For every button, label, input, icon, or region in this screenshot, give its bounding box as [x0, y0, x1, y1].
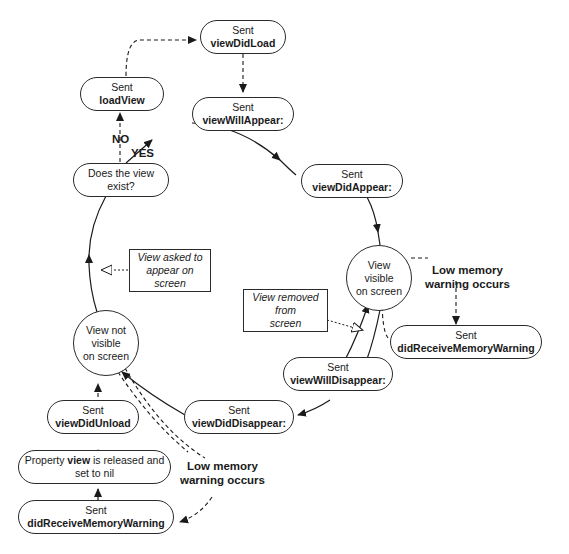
does-view-exist-line1: Does the view — [88, 167, 154, 180]
view-asked-to-appear-note: View asked to appear on screen — [129, 249, 211, 292]
does-view-exist-line2: exist? — [107, 180, 134, 193]
view-visible-line1: View — [368, 259, 391, 272]
property-name: view — [67, 454, 90, 466]
load-view-method: loadView — [99, 94, 144, 107]
view-did-load-line1: Sent — [232, 24, 254, 37]
view-not-visible-node: View not visible on screen — [73, 310, 139, 376]
view-visible-line3: on screen — [356, 285, 402, 298]
property-suffix: is released and — [90, 454, 164, 466]
view-not-visible-line1: View not — [86, 324, 126, 337]
load-view-line1: Sent — [111, 81, 133, 94]
view-did-appear-node: Sent viewDidAppear: — [301, 164, 403, 198]
view-did-disappear-node: Sent viewDidDisappear: — [184, 400, 294, 434]
property-released-line2: set to nil — [75, 467, 114, 480]
low-memory-left-label: Low memory warning occurs — [180, 459, 265, 487]
property-prefix: Property — [25, 454, 68, 466]
view-did-appear-line1: Sent — [341, 168, 363, 181]
view-asked-to-appear-line3: screen — [154, 277, 186, 290]
view-did-disappear-line1: Sent — [228, 404, 250, 417]
view-will-disappear-node: Sent viewWillDisappear: — [283, 357, 393, 391]
low-memory-left-line2: warning occurs — [180, 473, 265, 487]
no-label: NO — [112, 132, 129, 146]
did-receive-memory-warning-right-method: didReceiveMemoryWarning — [397, 342, 534, 355]
yes-label: YES — [131, 146, 154, 160]
view-will-appear-node: Sent viewWillAppear: — [192, 97, 294, 131]
view-did-disappear-method: viewDidDisappear: — [192, 417, 286, 430]
view-not-visible-line3: on screen — [83, 350, 129, 363]
property-released-node: Property view is released and set to nil — [18, 450, 171, 484]
view-did-appear-method: viewDidAppear: — [312, 181, 391, 194]
low-memory-left-line1: Low memory — [180, 459, 265, 473]
load-view-node: Sent loadView — [80, 77, 164, 111]
low-memory-right-line1: Low memory — [425, 263, 510, 277]
view-will-disappear-line1: Sent — [327, 361, 349, 374]
view-did-load-node: Sent viewDidLoad — [200, 20, 286, 54]
low-memory-right-line2: warning occurs — [425, 277, 510, 291]
does-view-exist-node: Does the view exist? — [73, 163, 169, 197]
view-removed-line3: screen — [270, 317, 302, 330]
view-will-appear-line1: Sent — [232, 101, 254, 114]
property-released-line1: Property view is released and — [25, 454, 165, 467]
view-removed-note: View removed from screen — [243, 289, 328, 332]
did-receive-memory-warning-right-node: Sent didReceiveMemoryWarning — [390, 325, 542, 359]
view-asked-to-appear-line2: appear on — [146, 264, 193, 277]
did-receive-memory-warning-left-node: Sent didReceiveMemoryWarning — [18, 500, 174, 534]
view-did-load-method: viewDidLoad — [211, 37, 276, 50]
view-did-unload-node: Sent viewDidUnload — [47, 400, 139, 434]
view-not-visible-line2: visible — [91, 337, 120, 350]
did-receive-memory-warning-right-line1: Sent — [455, 329, 477, 342]
view-did-unload-method: viewDidUnload — [55, 417, 130, 430]
view-did-unload-line1: Sent — [82, 404, 104, 417]
low-memory-right-label: Low memory warning occurs — [425, 263, 510, 291]
view-visible-line2: visible — [364, 272, 393, 285]
view-will-disappear-method: viewWillDisappear: — [290, 374, 386, 387]
did-receive-memory-warning-left-line1: Sent — [85, 504, 107, 517]
view-will-appear-method: viewWillAppear: — [202, 114, 283, 127]
view-removed-line1: View removed — [252, 291, 318, 304]
view-removed-line2: from — [275, 304, 296, 317]
view-controller-lifecycle-diagram: Sent viewDidLoad Sent loadView Sent view… — [0, 0, 569, 554]
view-asked-to-appear-line1: View asked to — [137, 251, 202, 264]
view-visible-node: View visible on screen — [346, 245, 412, 311]
did-receive-memory-warning-left-method: didReceiveMemoryWarning — [27, 517, 164, 530]
